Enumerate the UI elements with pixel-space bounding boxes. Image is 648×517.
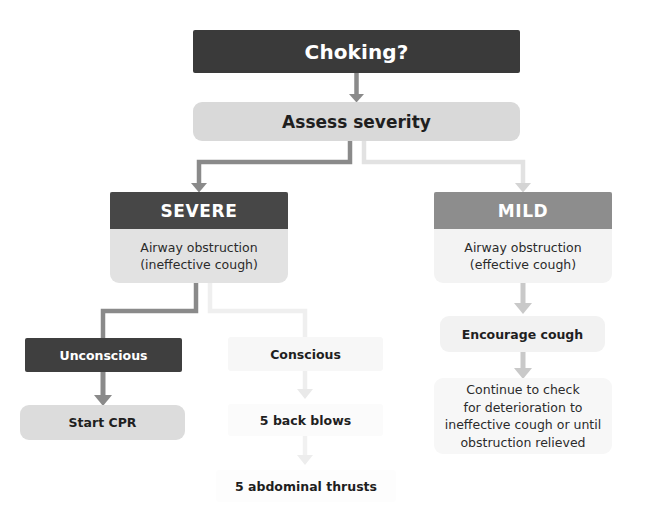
edge-conscious-to-backblows (297, 371, 313, 399)
node-start-cpr[interactable]: Start CPR (20, 405, 185, 440)
node-encourage-cough-label: Encourage cough (440, 316, 605, 352)
node-abdominal-thrusts[interactable]: 5 abdominal thrusts (216, 470, 396, 502)
node-back-blows[interactable]: 5 back blows (228, 404, 383, 436)
node-severe-header: SEVERE (110, 192, 288, 229)
node-severe-body: Airway obstruction (ineffective cough) (110, 229, 288, 283)
node-unconscious-label: Unconscious (25, 338, 182, 372)
node-unconscious[interactable]: Unconscious (25, 338, 182, 372)
node-continue-check[interactable]: Continue to check for deterioration to i… (434, 378, 612, 454)
edge-severe-to-conscious (210, 283, 305, 337)
node-mild-header: MILD (434, 192, 612, 229)
node-back-blows-label: 5 back blows (228, 404, 383, 436)
edge-encourage-to-continue (514, 352, 532, 379)
node-start-cpr-label: Start CPR (20, 405, 185, 440)
edge-backblows-to-thrusts (297, 436, 313, 465)
node-mild-body: Airway obstruction (effective cough) (434, 229, 612, 283)
node-abdominal-thrusts-label: 5 abdominal thrusts (216, 470, 396, 502)
edge-choking-to-assess (349, 73, 364, 103)
node-mild[interactable]: MILD Airway obstruction (effective cough… (434, 192, 612, 283)
node-encourage-cough[interactable]: Encourage cough (440, 316, 605, 352)
node-conscious-label: Conscious (228, 337, 383, 371)
node-assess-severity[interactable]: Assess severity (193, 102, 520, 141)
node-continue-check-label: Continue to check for deterioration to i… (434, 378, 612, 454)
node-choking[interactable]: Choking? (193, 30, 520, 73)
node-severe[interactable]: SEVERE Airway obstruction (ineffective c… (110, 192, 288, 283)
node-assess-severity-label: Assess severity (193, 102, 520, 141)
edge-assess-to-mild (364, 141, 531, 193)
node-conscious[interactable]: Conscious (228, 337, 383, 371)
edge-severe-to-unconscious (103, 283, 196, 338)
edge-assess-to-severe (191, 141, 350, 193)
edge-unconscious-to-startcpr (94, 372, 112, 406)
edge-mild-to-encourage (514, 283, 532, 314)
node-choking-label: Choking? (193, 30, 520, 73)
